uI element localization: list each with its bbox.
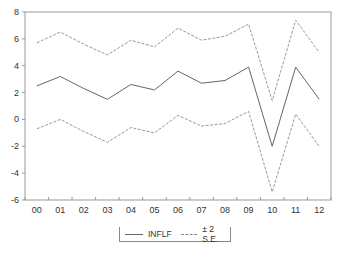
dashed-line-icon — [181, 234, 198, 235]
y-tick-label: 6 — [14, 34, 19, 44]
series-line-upper — [37, 20, 319, 101]
y-tick-label: 8 — [14, 7, 19, 17]
series-line-lower — [37, 111, 319, 191]
y-tick-label: -6 — [11, 195, 19, 205]
y-tick-label: 0 — [14, 114, 19, 124]
line-chart: 86420-2-4-6 00010203040506070809101112 — [0, 0, 343, 225]
plot-frame — [25, 12, 331, 200]
x-tick-label: 07 — [197, 205, 207, 215]
x-tick-label: 08 — [220, 205, 230, 215]
y-axis: 86420-2-4-6 — [11, 7, 25, 205]
y-tick-label: -4 — [11, 168, 19, 178]
x-tick-label: 04 — [126, 205, 136, 215]
series-lines — [37, 20, 319, 192]
x-tick-label: 10 — [267, 205, 277, 215]
legend-item-se-band: ± 2 S.E. — [181, 224, 230, 244]
legend-item-inflf: INFLF — [125, 229, 172, 239]
x-tick-label: 09 — [244, 205, 254, 215]
y-tick-label: -2 — [11, 141, 19, 151]
y-tick-label: 2 — [14, 88, 19, 98]
y-tick-label: 4 — [14, 61, 19, 71]
solid-line-icon — [125, 234, 143, 235]
legend-label: INFLF — [148, 229, 172, 239]
x-tick-label: 05 — [149, 205, 159, 215]
x-tick-label: 12 — [314, 205, 324, 215]
x-tick-label: 01 — [55, 205, 65, 215]
x-tick-label: 00 — [32, 205, 42, 215]
x-tick-label: 02 — [79, 205, 89, 215]
series-line-inflf — [37, 67, 319, 146]
x-tick-label: 11 — [291, 205, 300, 215]
legend: INFLF ± 2 S.E. — [119, 227, 231, 242]
x-tick-label: 06 — [173, 205, 183, 215]
legend-label: ± 2 S.E. — [202, 224, 230, 244]
x-tick-label: 03 — [102, 205, 112, 215]
